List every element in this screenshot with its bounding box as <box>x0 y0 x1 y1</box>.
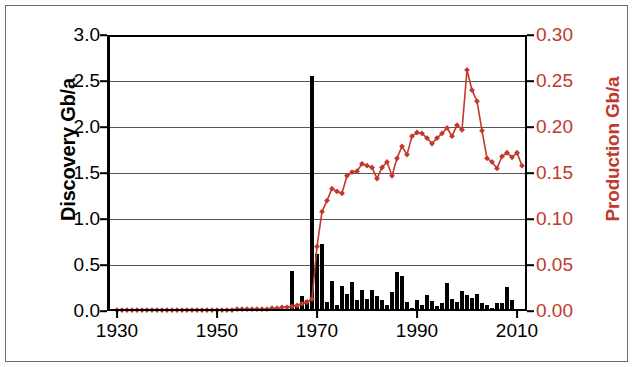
right-axis-tick-mark <box>527 80 534 82</box>
x-axis-tick-label: 1930 <box>96 320 138 342</box>
series-layer <box>107 35 527 311</box>
chart-figure: Discovery Gb/a Production Gb/a 0.00.51.0… <box>0 0 633 367</box>
left-axis-tick-label: 1.0 <box>74 208 100 230</box>
production-marker <box>474 98 480 104</box>
x-axis-tick-mark <box>216 311 218 318</box>
production-marker <box>299 301 305 307</box>
right-axis-tick-mark <box>527 34 534 36</box>
production-marker <box>479 128 485 134</box>
right-axis-tick-label: 0.25 <box>536 70 573 92</box>
plot-area: 0.00.51.01.52.02.53.00.000.050.100.150.2… <box>107 35 527 311</box>
right-axis-tick-label: 0.15 <box>536 162 573 184</box>
left-axis-tick-label: 2.0 <box>74 116 100 138</box>
left-axis-tick-mark <box>100 310 107 312</box>
x-axis-tick-label: 1950 <box>196 320 238 342</box>
right-axis-tick-label: 0.30 <box>536 24 573 46</box>
production-marker <box>389 173 395 179</box>
right-axis-tick-mark <box>527 172 534 174</box>
x-axis-tick-label: 2010 <box>496 320 538 342</box>
production-marker <box>464 67 470 73</box>
production-marker <box>324 198 330 204</box>
plot-border-top <box>107 35 527 37</box>
left-axis-tick-label: 0.0 <box>74 300 100 322</box>
plot-border-left <box>107 35 110 311</box>
production-marker <box>369 165 375 171</box>
right-axis-title: Production Gb/a <box>602 34 624 264</box>
x-axis-tick-mark <box>116 311 118 318</box>
x-axis-tick-label: 1990 <box>396 320 438 342</box>
production-marker <box>364 163 370 169</box>
right-axis-tick-mark <box>527 126 534 128</box>
production-marker <box>469 87 475 93</box>
left-axis-tick-label: 1.5 <box>74 162 100 184</box>
left-axis-tick-mark <box>100 172 107 174</box>
production-marker <box>394 155 400 161</box>
production-marker <box>339 190 345 196</box>
right-axis-tick-label: 0.00 <box>536 300 573 322</box>
x-axis-tick-mark <box>316 311 318 318</box>
x-axis-tick-mark <box>416 311 418 318</box>
left-axis-tick-mark <box>100 218 107 220</box>
left-axis-tick-mark <box>100 34 107 36</box>
x-axis-tick-mark <box>516 311 518 318</box>
production-marker <box>319 209 325 215</box>
left-axis-tick-label: 2.5 <box>74 70 100 92</box>
right-axis-tick-mark <box>527 264 534 266</box>
production-line-path <box>117 70 522 310</box>
production-marker <box>374 176 380 182</box>
left-axis-tick-label: 3.0 <box>74 24 100 46</box>
production-line <box>107 35 527 311</box>
left-axis-tick-label: 0.5 <box>74 254 100 276</box>
left-axis-tick-mark <box>100 80 107 82</box>
production-marker <box>314 244 320 250</box>
right-axis-tick-label: 0.05 <box>536 254 573 276</box>
right-axis-tick-label: 0.20 <box>536 116 573 138</box>
left-axis-tick-mark <box>100 264 107 266</box>
right-axis-tick-mark <box>527 218 534 220</box>
right-axis-tick-label: 0.10 <box>536 208 573 230</box>
right-axis-tick-mark <box>527 310 534 312</box>
production-marker <box>294 303 300 309</box>
x-axis-tick-label: 1970 <box>296 320 338 342</box>
left-axis-title: Discovery Gb/a <box>57 35 80 265</box>
left-axis-tick-mark <box>100 126 107 128</box>
